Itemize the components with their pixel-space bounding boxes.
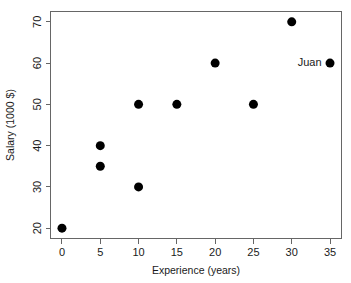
scatter-plot-figure: 05101520253035 203040506070 Juan Experie… bbox=[0, 0, 351, 283]
plot-canvas: 05101520253035 203040506070 Juan Experie… bbox=[0, 0, 351, 283]
data-point bbox=[172, 100, 181, 109]
y-tick-label-40: 40 bbox=[31, 140, 43, 152]
y-tick-label-30: 30 bbox=[31, 181, 43, 193]
x-tick-label-15: 15 bbox=[171, 246, 183, 258]
x-tick-label-5: 5 bbox=[97, 246, 103, 258]
data-point bbox=[287, 17, 296, 26]
y-tick-label-20: 20 bbox=[31, 222, 43, 234]
y-tick-label-70: 70 bbox=[31, 16, 43, 28]
x-tick-label-20: 20 bbox=[209, 246, 221, 258]
x-tick-label-35: 35 bbox=[324, 246, 336, 258]
plot-background bbox=[0, 0, 351, 283]
y-axis-title: Salary (1000 $) bbox=[4, 89, 16, 161]
x-tick-label-10: 10 bbox=[132, 246, 144, 258]
data-point bbox=[211, 59, 220, 68]
x-axis-title: Experience (years) bbox=[152, 264, 240, 276]
point-annotations: Juan bbox=[298, 56, 322, 68]
data-point bbox=[134, 100, 143, 109]
data-point bbox=[134, 182, 143, 191]
data-point bbox=[96, 162, 105, 171]
x-tick-label-0: 0 bbox=[59, 246, 65, 258]
data-point bbox=[326, 59, 335, 68]
data-point bbox=[96, 141, 105, 150]
x-tick-label-25: 25 bbox=[247, 246, 259, 258]
y-tick-label-50: 50 bbox=[31, 98, 43, 110]
data-point bbox=[57, 224, 66, 233]
y-tick-label-60: 60 bbox=[31, 57, 43, 69]
data-point bbox=[249, 100, 258, 109]
x-tick-label-30: 30 bbox=[286, 246, 298, 258]
point-label-juan: Juan bbox=[298, 56, 322, 68]
